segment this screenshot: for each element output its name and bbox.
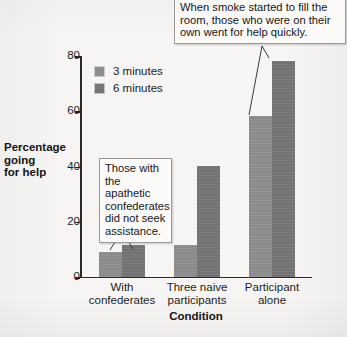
x-category-three-naive-line1: Three naive	[157, 281, 237, 294]
legend-item-6-minutes: 6 minutes	[94, 81, 163, 96]
y-axis-line	[80, 56, 82, 277]
y-axis-title-line1: Percentage	[4, 141, 78, 154]
x-category-with-confederates-line1: With	[82, 281, 162, 294]
bar-participant-alone-3min	[249, 116, 272, 276]
x-category-participant-alone-line1: Participant	[232, 281, 312, 294]
y-axis-title-line3: for help	[4, 166, 78, 179]
y-tick-label-20: 20	[54, 216, 80, 228]
legend-swatch-3-minutes	[94, 66, 105, 77]
bar-three-naive-3min	[174, 245, 197, 277]
x-category-label-participant-alone: Participant alone	[232, 281, 312, 307]
y-tick-label-0: 0	[54, 271, 80, 283]
callout-top: When smoke started to fill the room, tho…	[174, 0, 346, 44]
callout-top-pointer	[249, 46, 269, 115]
legend: 3 minutes 6 minutes	[94, 64, 163, 98]
callout-bottom: Those with the apathetic confederates di…	[99, 158, 172, 243]
bar-with-confederates-6min	[122, 245, 145, 277]
y-tick-label-60: 60	[54, 105, 80, 117]
legend-item-3-minutes: 3 minutes	[94, 64, 163, 79]
y-axis-title: Percentage going for help	[4, 141, 78, 179]
bar-chart: 80 60 40 20 0 Percentage going for help …	[0, 0, 347, 337]
y-axis-title-line2: going	[4, 154, 78, 167]
legend-label-6-minutes: 6 minutes	[113, 83, 163, 95]
x-category-with-confederates-line2: confederates	[82, 294, 162, 307]
bar-participant-alone-6min	[272, 61, 295, 277]
x-axis-line	[80, 277, 312, 279]
y-tick-label-80: 80	[54, 50, 80, 62]
x-category-label-three-naive-participants: Three naive participants	[157, 281, 237, 307]
x-category-label-with-confederates: With confederates	[82, 281, 162, 307]
legend-swatch-6-minutes	[94, 83, 105, 94]
x-axis-title: Condition	[80, 310, 312, 322]
bar-three-naive-6min	[197, 166, 220, 277]
x-category-participant-alone-line2: alone	[232, 294, 312, 307]
x-category-three-naive-line2: participants	[157, 294, 237, 307]
legend-label-3-minutes: 3 minutes	[113, 66, 163, 78]
bar-with-confederates-3min	[99, 252, 122, 277]
